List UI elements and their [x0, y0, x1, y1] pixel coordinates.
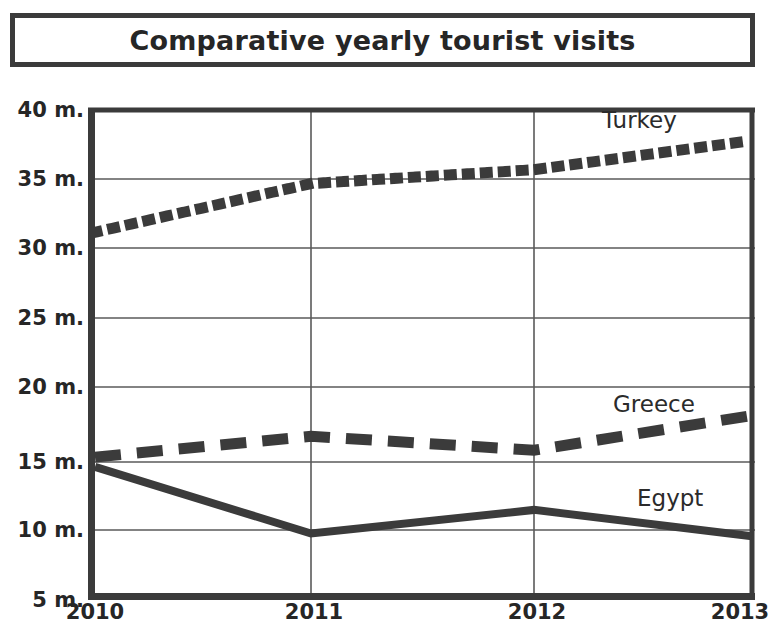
chart-page: Comparative yearly tourist visits 40 m. …	[0, 0, 773, 637]
series-label-turkey: Turkey	[602, 107, 677, 133]
x-tick-label: 2013	[711, 600, 769, 624]
series-label-greece: Greece	[613, 391, 695, 417]
page-title: Comparative yearly tourist visits	[129, 25, 635, 56]
x-tick-label: 2011	[285, 600, 343, 624]
series-line-turkey	[95, 141, 752, 233]
chart-plot-area: 40 m. 35 m. 30 m. 25 m. 20 m. 15 m. 10 m…	[0, 95, 773, 637]
x-tick-label: 2010	[66, 600, 124, 624]
chart-canvas	[0, 95, 773, 637]
series-label-egypt: Egypt	[637, 485, 703, 511]
x-tick-label: 2012	[508, 600, 566, 624]
chart-title-box: Comparative yearly tourist visits	[10, 13, 755, 67]
series-line-greece	[95, 416, 752, 458]
